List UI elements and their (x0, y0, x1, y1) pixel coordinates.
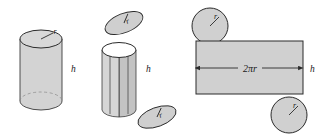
label-height-net: h (310, 64, 315, 74)
cylinder-body (20, 39, 62, 110)
lateral-panel-left (102, 50, 119, 117)
panel-exploded-cylinder: r r h (102, 7, 179, 133)
panel-flat-net: r 2πr h r (192, 8, 315, 133)
cylinder-surface-area-figure: r h r (0, 0, 327, 140)
open-top-rim (102, 43, 136, 58)
detached-bottom-disk-group (135, 101, 179, 133)
label-height: h (71, 64, 76, 74)
panel-solid-cylinder: r h (20, 27, 76, 110)
detached-top-disk-group (102, 7, 146, 40)
lateral-panel-right (119, 50, 136, 117)
label-height-exploded: h (146, 64, 151, 74)
figure-canvas: r h r (0, 0, 327, 140)
label-circumference: 2πr (243, 63, 257, 74)
